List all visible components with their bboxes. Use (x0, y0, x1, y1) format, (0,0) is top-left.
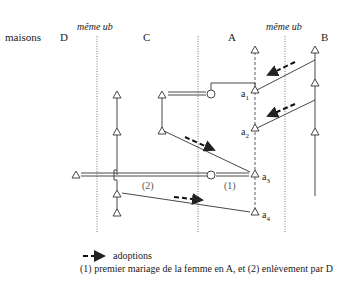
kinship-diagram (0, 0, 350, 282)
house-a-label: A (228, 31, 236, 43)
male-symbols (72, 46, 319, 216)
house-separators (97, 36, 285, 232)
house-b-label: B (321, 31, 328, 43)
same-ub-right-label: même ub (266, 21, 302, 32)
house-d-label: D (60, 31, 68, 43)
triangle-b-2 (311, 79, 319, 86)
triangle-a3 (251, 170, 259, 177)
adoption-arrow-b-a2 (268, 104, 295, 116)
houses-label: maisons (5, 31, 41, 43)
triangle-b-3 (311, 128, 319, 135)
triangle-c-right-2 (158, 127, 166, 134)
adoption-arrow-b-a1 (268, 62, 295, 75)
triangle-c-right-1 (158, 91, 166, 98)
b-to-a1-line (257, 60, 315, 90)
triangle-a4 (251, 208, 259, 215)
triangle-c-lower-2 (113, 209, 121, 216)
a3-label: a3 (262, 171, 270, 185)
same-ub-left-label: même ub (77, 21, 113, 32)
marriage-1-label: (1) (224, 180, 236, 191)
triangle-c-left-2 (113, 128, 121, 135)
a2-label: a2 (241, 126, 249, 140)
legend-adoptions-label: adoptions (113, 250, 152, 261)
triangle-c-lower-1 (113, 190, 121, 197)
c-to-a3-line (164, 131, 250, 172)
triangle-d (72, 171, 80, 178)
house-c-label: C (143, 31, 150, 43)
triangle-b-1 (311, 46, 319, 53)
triangle-a-top (251, 46, 259, 53)
a1-label: a1 (241, 88, 249, 102)
c-to-a4-line (122, 193, 250, 212)
lower-marriage (81, 171, 249, 179)
a4-label: a4 (262, 209, 270, 223)
marriage-2-label: (2) (142, 180, 154, 191)
b-to-a2-line (257, 100, 315, 128)
triangle-c-left-1 (113, 91, 121, 98)
legend-note: (1) premier mariage de la femme en A, et… (80, 263, 333, 274)
